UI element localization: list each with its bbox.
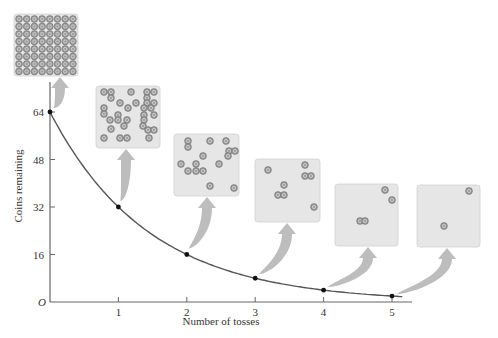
coin-icon [207, 183, 214, 190]
coin-icon [124, 135, 131, 142]
coin-icon [23, 23, 30, 30]
coin-icon [466, 188, 473, 195]
coin-icon [389, 197, 396, 204]
data-point [390, 294, 395, 299]
y-tick-label: 64 [33, 106, 45, 118]
coin-icon [31, 61, 38, 68]
coin-icon [54, 31, 61, 38]
coin-icon [46, 31, 53, 38]
coin-decay-diagram: 16324864 12345 O Number of tosses Coins … [0, 0, 498, 338]
x-tick-label: 5 [389, 306, 395, 318]
coin-icon [302, 162, 309, 169]
coin-icon [178, 161, 185, 168]
coin-icon [39, 16, 46, 23]
coin-icon [62, 53, 69, 60]
coin-icon [146, 135, 153, 142]
coin-icon [54, 61, 61, 68]
coin-box-toss-5 [417, 185, 480, 247]
coin-icon [62, 16, 69, 23]
coin-icon [16, 53, 23, 60]
coin-icon [308, 173, 315, 180]
coin-icon [200, 168, 207, 175]
coin-box-toss-2 [174, 134, 239, 196]
coin-icon [70, 31, 77, 38]
coin-icon [46, 23, 53, 30]
coin-icon [16, 23, 23, 30]
coin-icon [185, 168, 192, 175]
coin-icon [31, 53, 38, 60]
y-tick-label: 48 [33, 154, 45, 166]
x-axis-title: Number of tosses [183, 315, 260, 327]
coin-icon [16, 46, 23, 53]
coin-icon [70, 53, 77, 60]
curved-arrow-icon [51, 77, 69, 108]
data-point [48, 110, 53, 115]
coin-icon [70, 16, 77, 23]
coin-icon [382, 187, 389, 194]
coin-icon [31, 31, 38, 38]
coin-icon [281, 192, 288, 199]
coin-box-toss-3 [255, 159, 320, 222]
curved-arrow-icon [117, 149, 135, 201]
coin-icon [23, 61, 30, 68]
coin-icon [54, 23, 61, 30]
data-point [321, 288, 326, 293]
coin-icon [16, 38, 23, 45]
data-point [184, 252, 189, 257]
origin-label: O [38, 296, 46, 308]
coin-icon [107, 117, 114, 124]
y-tick-label: 32 [33, 201, 44, 213]
coin-icon [141, 117, 148, 124]
coin-icon [39, 61, 46, 68]
coin-icon [441, 223, 448, 230]
coin-icon [39, 23, 46, 30]
coin-icon [117, 100, 124, 107]
coin-icon [31, 68, 38, 75]
coin-icon [54, 68, 61, 75]
coin-icon [362, 218, 369, 225]
coin-icon [46, 16, 53, 23]
coin-icon [108, 126, 115, 133]
coin-icon [117, 135, 124, 142]
coin-box-background [335, 184, 398, 246]
coin-icon [70, 23, 77, 30]
y-ticks: 16324864 [33, 106, 55, 261]
coin-icon [151, 89, 158, 96]
coin-icon [31, 38, 38, 45]
coin-box-background [14, 14, 78, 76]
coin-icon [231, 185, 238, 192]
coin-icon [101, 89, 108, 96]
coin-icon [207, 138, 214, 145]
coin-icon [62, 38, 69, 45]
coin-icon [185, 144, 192, 151]
coin-icon [125, 105, 132, 112]
coin-icon [39, 68, 46, 75]
coin-icon [232, 148, 239, 155]
coin-icon [39, 31, 46, 38]
coin-icon [31, 46, 38, 53]
coin-icon [141, 105, 148, 112]
coin-icon [151, 112, 158, 119]
coin-icon [200, 153, 207, 160]
y-tick-label: 16 [33, 249, 45, 261]
curved-arrow-icon [397, 248, 456, 294]
coin-icon [23, 46, 30, 53]
coin-icon [133, 100, 140, 107]
coin-icon [62, 46, 69, 53]
data-point [116, 205, 121, 210]
coin-icon [101, 111, 108, 118]
coin-icon [39, 53, 46, 60]
coin-icon [128, 89, 135, 96]
coin-icon [223, 138, 230, 145]
coin-icon [62, 61, 69, 68]
coin-box-toss-1 [96, 86, 160, 148]
coin-icon [281, 182, 288, 189]
curved-arrow-icon [189, 197, 216, 249]
coin-icon [23, 53, 30, 60]
coin-icon [54, 38, 61, 45]
coin-icon [108, 95, 115, 102]
coin-icon [31, 16, 38, 23]
coin-icon [46, 68, 53, 75]
y-axis-title: Coins remaining [12, 149, 24, 223]
coin-icon [23, 31, 30, 38]
